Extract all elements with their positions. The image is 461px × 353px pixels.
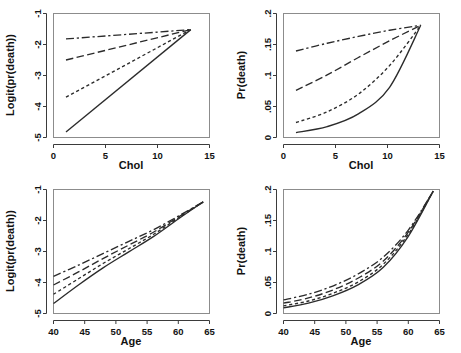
y-tick-label: 0	[262, 311, 273, 316]
x-axis-title: Age	[121, 335, 142, 347]
y-tick-label: .2	[262, 186, 273, 194]
y-axis-top-right: 0.05.1.15.2	[262, 10, 276, 141]
figure-container: 051015 -5-4-3-2-1 Chol Logit(pr(death)) …	[0, 0, 461, 353]
y-axis-title: Pr(death)	[235, 227, 247, 276]
panel-bottom-left: 404550556065 -5-4-3-2-1 Age Logit(pr(dea…	[0, 177, 231, 353]
y-axis-bottom-left: -5-4-3-2-1	[32, 185, 46, 318]
y-tick-label: -5	[32, 133, 43, 142]
x-tick-label: 10	[382, 150, 393, 161]
curve-group-2	[66, 30, 191, 98]
curve-group-1	[54, 202, 204, 304]
x-tick-label: 5	[333, 150, 339, 161]
y-tick-label: .1	[262, 71, 273, 80]
x-tick-label: 40	[278, 326, 289, 337]
y-tick-label: -3	[32, 71, 43, 79]
y-tick-label: -2	[32, 40, 43, 48]
x-tick-label: 55	[372, 326, 383, 337]
x-axis-title: Age	[351, 335, 372, 347]
x-tick-label: 60	[173, 326, 184, 337]
y-axis-title: Logit(pr(death))	[4, 210, 16, 292]
panel-bottom-left-svg: 404550556065 -5-4-3-2-1 Age Logit(pr(dea…	[0, 177, 231, 353]
y-axis-title: Logit(pr(death))	[4, 34, 16, 116]
y-tick-label: -3	[32, 247, 43, 255]
x-tick-label: 45	[309, 326, 320, 337]
panel-top-right: 051015 0.05.1.15.2 Chol Pr(death)	[231, 0, 461, 177]
y-axis-top-left: -5-4-3-2-1	[32, 9, 46, 142]
y-tick-label: .15	[262, 37, 273, 51]
panel-top-right-svg: 051015 0.05.1.15.2 Chol Pr(death)	[231, 0, 461, 177]
y-tick-label: 0	[262, 135, 273, 140]
curve-group-1	[284, 191, 434, 308]
curve-group-1	[66, 30, 191, 132]
x-tick-label: 5	[103, 150, 109, 161]
y-tick-label: -1	[32, 185, 43, 194]
panel-bottom-right: 404550556065 0.05.1.15.2 Age Pr(death)	[231, 177, 461, 353]
y-tick-label: .15	[262, 213, 273, 227]
x-tick-label: 65	[434, 326, 445, 337]
x-axis-title: Chol	[119, 159, 143, 171]
x-tick-label: 50	[111, 326, 122, 337]
y-tick-label: .2	[262, 10, 273, 18]
x-tick-label: 0	[281, 150, 286, 161]
x-tick-label: 45	[79, 326, 90, 337]
y-tick-label: -5	[32, 309, 43, 318]
x-tick-label: 50	[341, 326, 352, 337]
curve-group-2	[284, 191, 434, 306]
curves-bottom-right	[284, 191, 434, 308]
x-axis-title: Chol	[349, 159, 373, 171]
x-tick-label: 55	[142, 326, 153, 337]
plot-frame-top-left	[54, 14, 210, 138]
x-tick-label: 65	[204, 326, 215, 337]
x-tick-label: 60	[403, 326, 414, 337]
x-tick-label: 10	[152, 150, 163, 161]
y-tick-label: -4	[32, 278, 43, 287]
y-tick-label: -2	[32, 216, 43, 224]
y-tick-label: .05	[262, 99, 273, 113]
curve-group-4	[296, 25, 421, 51]
curves-top-left	[66, 30, 191, 132]
curve-group-3	[284, 191, 434, 303]
x-tick-label: 0	[51, 150, 56, 161]
y-tick-label: .05	[262, 275, 273, 289]
curve-group-4	[284, 191, 434, 300]
panel-top-left-svg: 051015 -5-4-3-2-1 Chol Logit(pr(death))	[0, 0, 231, 177]
y-tick-label: .1	[262, 247, 273, 256]
curves-top-right	[296, 25, 421, 132]
x-tick-label: 15	[434, 150, 445, 161]
plot-frame-bottom-left	[54, 190, 210, 314]
panel-top-left: 051015 -5-4-3-2-1 Chol Logit(pr(death))	[0, 0, 231, 177]
x-tick-label: 15	[204, 150, 215, 161]
curve-group-2	[296, 25, 421, 122]
y-tick-label: -4	[32, 102, 43, 111]
y-tick-label: -1	[32, 9, 43, 18]
y-axis-bottom-right: 0.05.1.15.2	[262, 186, 276, 317]
plot-frame-bottom-right	[284, 190, 440, 314]
curves-bottom-left	[54, 202, 204, 304]
curve-group-3	[54, 202, 204, 285]
curve-group-4	[54, 202, 204, 276]
curve-group-3	[296, 25, 421, 90]
y-axis-title: Pr(death)	[235, 51, 247, 100]
x-tick-label: 40	[48, 326, 59, 337]
panel-bottom-right-svg: 404550556065 0.05.1.15.2 Age Pr(death)	[231, 177, 461, 353]
